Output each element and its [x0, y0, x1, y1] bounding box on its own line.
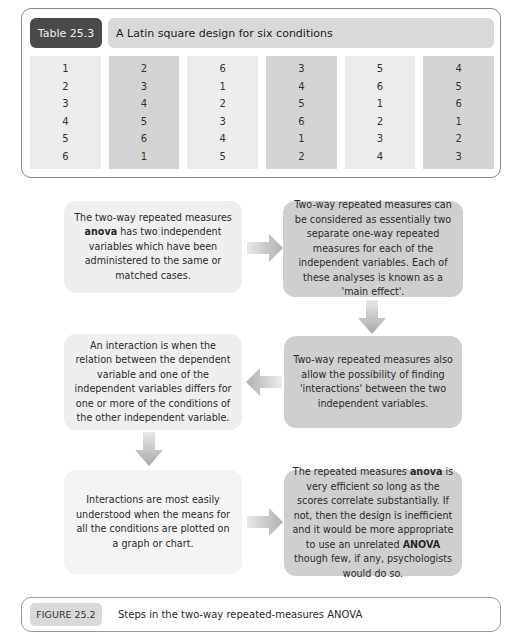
- flow-text-bold: ANOVA: [403, 539, 441, 550]
- table-cell: 2: [187, 95, 258, 112]
- table-column-1: 1 2 3 4 5 6: [30, 56, 101, 169]
- table-cell: 4: [423, 60, 494, 77]
- table-cell: 3: [345, 130, 416, 147]
- table-cell: 4: [345, 148, 416, 165]
- flow-box-efficiency: The repeated measures anova is very effi…: [284, 470, 462, 576]
- table-cell: 5: [266, 95, 337, 112]
- table-cell: 3: [187, 113, 258, 130]
- table-column-4: 3 4 5 6 1 2: [266, 56, 337, 169]
- table-cell: 5: [109, 113, 180, 130]
- flow-text: The two-way repeated measures: [74, 212, 232, 223]
- flow-text-bold: anova: [410, 466, 443, 477]
- arrow-right-icon: [247, 508, 283, 536]
- table-cell: 4: [109, 95, 180, 112]
- table-cell: 5: [345, 60, 416, 77]
- table-cell: 5: [423, 78, 494, 95]
- table-cell: 1: [345, 95, 416, 112]
- flow-box-two-way-intro: The two-way repeated measures anova has …: [64, 201, 242, 293]
- table-cell: 4: [266, 78, 337, 95]
- table-label: Table 25.3: [30, 18, 102, 48]
- arrow-right-icon: [247, 234, 283, 262]
- table-cell: 4: [30, 113, 101, 130]
- table-cell: 3: [423, 148, 494, 165]
- flow-text: though few, if any, psychologists would …: [294, 553, 452, 579]
- figure-caption-panel: FIGURE 25.2 Steps in the two-way repeate…: [21, 597, 501, 632]
- table-cell: 2: [345, 113, 416, 130]
- table-cell: 4: [187, 130, 258, 147]
- table-cell: 3: [266, 60, 337, 77]
- flow-text: Interactions are most easily understood …: [72, 493, 234, 551]
- table-cell: 6: [109, 130, 180, 147]
- table-cell: 6: [345, 78, 416, 95]
- arrow-down-icon: [358, 300, 386, 334]
- table-column-3: 6 1 2 3 4 5: [187, 56, 258, 169]
- table-cell: 1: [30, 60, 101, 77]
- flow-text: An interaction is when the relation betw…: [72, 339, 234, 426]
- table-cell: 3: [109, 78, 180, 95]
- flow-box-main-effect: Two-way repeated measures can be conside…: [283, 201, 463, 297]
- table-cell: 5: [30, 130, 101, 147]
- flow-text-bold: anova: [85, 226, 118, 237]
- table-cell: 6: [30, 148, 101, 165]
- table-cell: 1: [266, 130, 337, 147]
- table-cell: 6: [423, 95, 494, 112]
- table-column-2: 2 3 4 5 6 1: [109, 56, 180, 169]
- flow-box-interaction-definition: An interaction is when the relation betw…: [64, 334, 242, 430]
- latin-square-table: 1 2 3 4 5 6 2 3 4 5 6 1 6 1 2 3 4 5 3 4 …: [30, 56, 494, 169]
- table-cell: 6: [266, 113, 337, 130]
- table-column-6: 4 5 6 1 2 3: [423, 56, 494, 169]
- table-cell: 2: [30, 78, 101, 95]
- flow-text: Two-way repeated measures can be conside…: [291, 198, 455, 300]
- figure-label: FIGURE 25.2: [30, 603, 102, 626]
- table-cell: 1: [187, 78, 258, 95]
- table-cell: 5: [187, 148, 258, 165]
- table-cell: 2: [109, 60, 180, 77]
- table-panel: Table 25.3 A Latin square design for six…: [21, 8, 501, 178]
- arrow-left-icon: [246, 368, 282, 396]
- table-title: A Latin square design for six conditions: [108, 18, 494, 48]
- table-cell: 1: [423, 113, 494, 130]
- table-cell: 6: [187, 60, 258, 77]
- flow-box-interactions-possibility: Two-way repeated measures also allow the…: [284, 336, 462, 428]
- flow-box-plot-means: Interactions are most easily understood …: [64, 470, 242, 574]
- table-column-5: 5 6 1 2 3 4: [345, 56, 416, 169]
- arrow-down-icon: [135, 432, 163, 466]
- table-cell: 2: [266, 148, 337, 165]
- table-cell: 1: [109, 148, 180, 165]
- table-cell: 2: [423, 130, 494, 147]
- flow-text: The repeated measures: [293, 466, 410, 477]
- flow-text: Two-way repeated measures also allow the…: [292, 353, 454, 411]
- figure-title: Steps in the two-way repeated-measures A…: [118, 603, 362, 626]
- table-cell: 3: [30, 95, 101, 112]
- flow-text: is very efficient so long as the scores …: [292, 466, 453, 550]
